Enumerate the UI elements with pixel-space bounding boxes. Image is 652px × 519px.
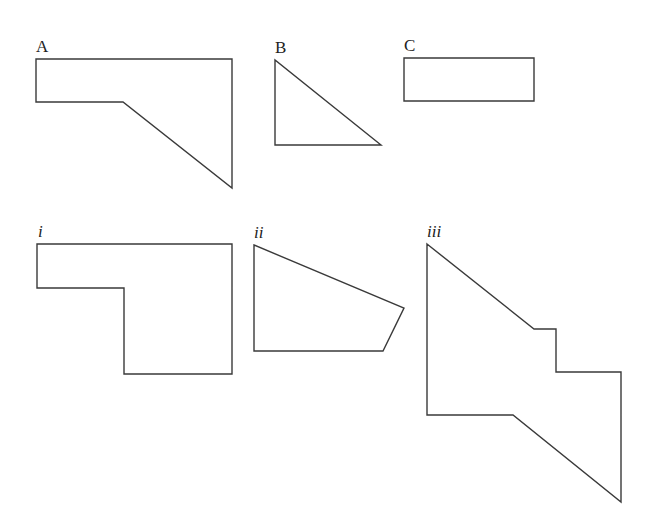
label-b: B — [275, 39, 286, 56]
shape-i — [37, 244, 232, 374]
label-c: C — [404, 37, 415, 54]
shape-iii — [427, 244, 621, 502]
label-i: i — [38, 223, 43, 240]
diagram-canvas — [0, 0, 652, 519]
shape-b — [275, 60, 381, 145]
label-a: A — [36, 38, 48, 55]
shape-a — [36, 59, 232, 188]
shape-c — [404, 58, 534, 101]
label-ii: ii — [254, 224, 263, 241]
shape-ii — [254, 245, 404, 351]
label-iii: iii — [427, 223, 441, 240]
